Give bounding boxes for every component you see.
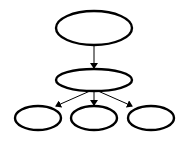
edge-mid-to-leaf-left <box>56 91 90 106</box>
edge-mid-to-leaf-right <box>98 91 132 106</box>
node-mid <box>56 69 132 91</box>
node-leaf-right <box>128 106 174 130</box>
node-leaf-center <box>71 106 117 130</box>
node-root <box>56 11 132 45</box>
tree-diagram <box>0 0 185 142</box>
node-leaf-left <box>15 106 61 130</box>
